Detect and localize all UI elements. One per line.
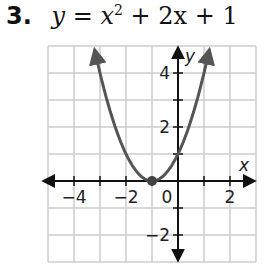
y-tick-label: −2 <box>145 225 170 245</box>
y-axis-label: y <box>184 46 196 66</box>
x-tick-label: −4 <box>61 187 86 207</box>
y-tick-label: 4 <box>159 63 170 83</box>
x-axis-label: x <box>238 155 250 175</box>
vertex-point <box>147 176 157 186</box>
x-tick-label: −2 <box>113 187 138 207</box>
x-tick-label: 2 <box>225 187 236 207</box>
y-tick-label: 2 <box>159 117 170 137</box>
x-tick-label: 0 <box>162 187 173 207</box>
graph: −4−202−224xy <box>0 0 266 268</box>
